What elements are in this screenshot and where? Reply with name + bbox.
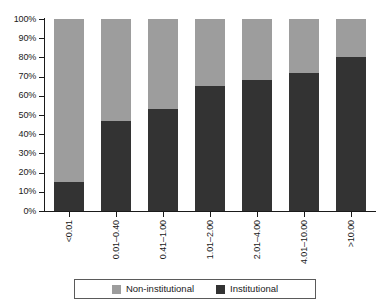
x-axis-tick-label: 0.01–0.40 [111, 220, 121, 259]
bar-column [195, 19, 225, 211]
x-axis-tick-label: 1.01–2.00 [205, 220, 215, 259]
x-axis-label-slot: 0.41–1.00 [156, 220, 170, 276]
bar-segment-institutional [101, 121, 131, 211]
y-axis-tick-label: 60% [0, 91, 36, 100]
x-axis-label-slot: 4.01–10.00 [297, 220, 311, 276]
bar-segment-non-institutional [54, 19, 84, 182]
x-axis-tick [69, 212, 70, 217]
bar-column [54, 19, 84, 211]
x-axis-tick [257, 212, 258, 217]
y-axis-tick-label: 50% [0, 111, 36, 120]
y-axis-tick [39, 211, 45, 212]
x-axis-tick-label: 4.01–10.00 [299, 220, 309, 264]
x-axis-tick-label: 0.41–1.00 [158, 220, 168, 259]
bar-segment-institutional [54, 182, 84, 211]
y-axis-tick-label: 100% [0, 15, 36, 24]
y-axis-tick-label: 70% [0, 72, 36, 81]
x-axis-label-slot: >10.00 [344, 220, 358, 276]
legend-item[interactable]: Institutional [216, 284, 278, 294]
bar-segment-non-institutional [195, 19, 225, 86]
y-axis-tick-label: 20% [0, 168, 36, 177]
x-axis-label-slot: <0.01 [62, 220, 76, 276]
bar-segment-non-institutional [148, 19, 178, 109]
x-axis-tick [304, 212, 305, 217]
x-axis-tick [163, 212, 164, 217]
bar-column [289, 19, 319, 211]
y-axis-tick-label: 10% [0, 187, 36, 196]
legend-label: Institutional [230, 284, 278, 294]
stacked-bar-chart: 0%10%20%30%40%50%60%70%80%90%100% <0.010… [0, 0, 388, 308]
legend-item[interactable]: Non-institutional [112, 284, 194, 294]
y-axis-tick-label: 0% [0, 207, 36, 216]
legend-label: Non-institutional [126, 284, 194, 294]
bar-segment-non-institutional [242, 19, 272, 80]
x-axis-tick [116, 212, 117, 217]
bar-segment-institutional [242, 80, 272, 211]
bar-segment-non-institutional [289, 19, 319, 73]
x-axis-label-slot: 1.01–2.00 [203, 220, 217, 276]
bar-segment-institutional [195, 86, 225, 211]
bar-segment-institutional [148, 109, 178, 211]
y-axis-tick-label: 80% [0, 53, 36, 62]
y-axis-tick-label: 40% [0, 130, 36, 139]
bar-segment-non-institutional [101, 19, 131, 121]
bar-group [45, 19, 375, 211]
chart-legend: Non-institutionalInstitutional [74, 279, 316, 299]
y-axis-tick-label: 90% [0, 34, 36, 43]
x-axis-label-slot: 0.01–0.40 [109, 220, 123, 276]
x-axis-tick-label: >10.00 [346, 220, 356, 247]
y-axis-tick-label: 30% [0, 149, 36, 158]
bar-column [148, 19, 178, 211]
bar-segment-non-institutional [336, 19, 366, 57]
x-axis-tick-label: 2.01–4.00 [252, 220, 262, 259]
x-axis-tick-label: <0.01 [64, 220, 74, 242]
bar-column [336, 19, 366, 211]
bar-column [242, 19, 272, 211]
x-axis-tick [210, 212, 211, 217]
bar-segment-institutional [336, 57, 366, 211]
legend-swatch-icon [216, 285, 225, 294]
bar-segment-institutional [289, 73, 319, 211]
legend-swatch-icon [112, 285, 121, 294]
x-axis-tick [351, 212, 352, 217]
bar-column [101, 19, 131, 211]
x-axis-label-slot: 2.01–4.00 [250, 220, 264, 276]
